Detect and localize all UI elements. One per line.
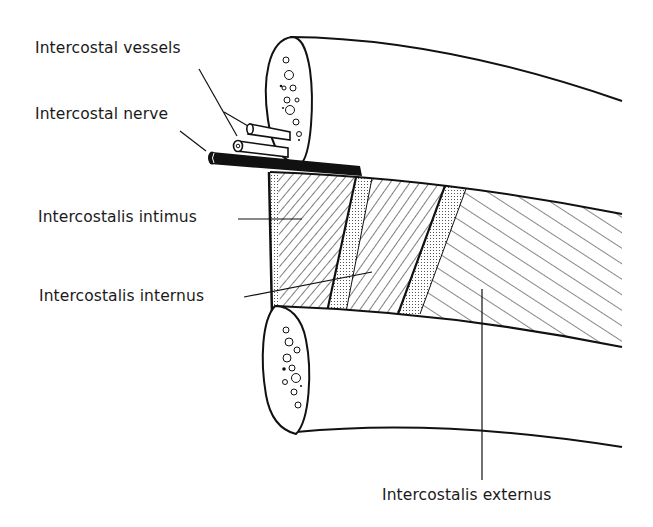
illustration (0, 0, 653, 527)
label-intercostal-vessels: Intercostal vessels (35, 39, 181, 57)
label-intercostalis-intimus: Intercostalis intimus (38, 208, 197, 226)
label-intercostal-nerve: Intercostal nerve (35, 105, 168, 123)
label-intercostalis-externus: Intercostalis externus (382, 486, 551, 504)
muscle-layers (270, 168, 640, 360)
intercostal-diagram: Intercostal vessels Intercostal nerve In… (0, 0, 653, 527)
upper-rib (266, 37, 622, 170)
label-intercostalis-internus: Intercostalis internus (39, 287, 204, 305)
